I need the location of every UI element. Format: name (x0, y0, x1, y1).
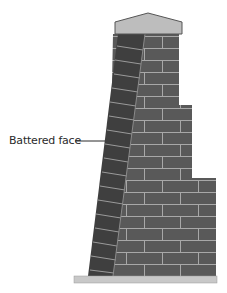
base-slab (74, 276, 217, 283)
coping-cap (115, 13, 182, 34)
battered-face-label: Battered face (9, 134, 81, 147)
